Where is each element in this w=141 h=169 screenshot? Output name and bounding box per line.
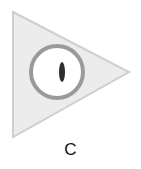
figure-label: C	[0, 140, 141, 160]
pupil-slit	[59, 62, 65, 82]
ring-circle	[31, 46, 83, 98]
